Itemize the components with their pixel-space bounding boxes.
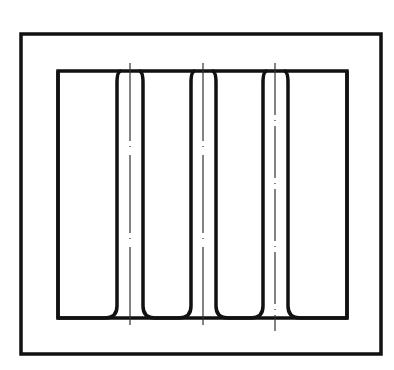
opening-1 [58,71,121,318]
diagram-canvas [0,0,394,370]
opening-3 [212,71,267,318]
centerlines-group [130,63,275,331]
frame-diagram [0,0,394,370]
opening-2 [139,71,195,318]
opening-4 [284,71,347,318]
outer-frame [21,34,381,354]
